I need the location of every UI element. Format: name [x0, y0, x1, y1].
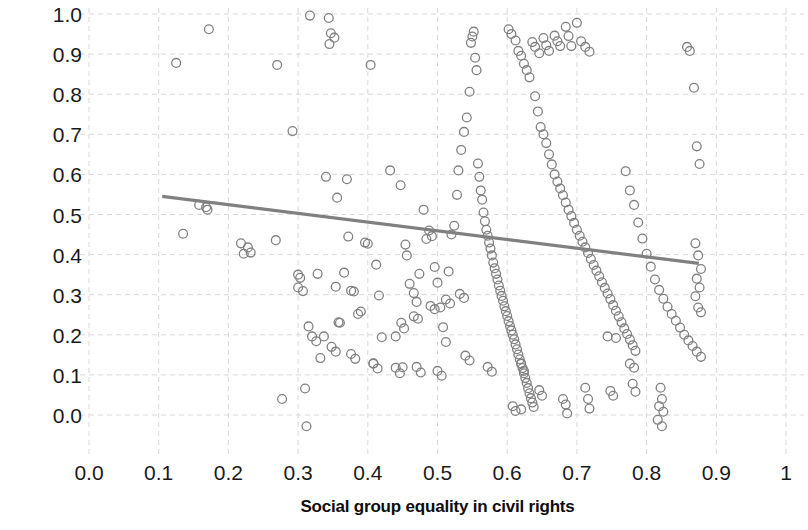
data-point	[658, 422, 667, 431]
y-axis-title: Female/male ratio	[6, 0, 32, 40]
data-point	[467, 38, 476, 47]
data-point	[692, 142, 701, 151]
x-tick-label: 0.5	[423, 462, 452, 483]
data-point	[651, 275, 660, 284]
data-point	[450, 221, 459, 230]
data-point	[304, 322, 313, 331]
data-point	[372, 260, 381, 269]
y-tick-label: 0.6	[36, 164, 82, 185]
y-tick-label: 0.0	[36, 405, 82, 426]
y-axis-tick-labels: 0.00.10.20.30.40.50.60.70.80.91.0	[30, 0, 82, 530]
data-point	[204, 25, 213, 34]
data-point	[402, 251, 411, 260]
data-point	[659, 294, 668, 303]
data-point	[344, 232, 353, 241]
data-point	[585, 404, 594, 413]
data-point	[691, 292, 700, 301]
data-point	[490, 264, 499, 273]
data-point	[302, 422, 311, 431]
trendline	[162, 196, 699, 263]
data-point	[278, 395, 287, 404]
data-point	[621, 167, 630, 176]
x-axis-tick-labels: 0.00.10.20.30.40.50.60.70.80.91	[0, 462, 808, 490]
data-point	[333, 193, 342, 202]
data-point	[603, 332, 612, 341]
data-point	[172, 59, 181, 68]
data-point	[444, 267, 453, 276]
data-point	[476, 186, 485, 195]
data-point	[454, 166, 463, 175]
data-point	[631, 387, 640, 396]
data-point	[493, 275, 502, 284]
data-point	[694, 251, 703, 260]
data-point	[342, 175, 351, 184]
scatter-points-group	[172, 11, 706, 430]
y-tick-label: 0.3	[36, 284, 82, 305]
x-tick-label: 0.4	[353, 462, 382, 483]
data-point	[386, 166, 395, 175]
data-point	[690, 83, 699, 92]
data-point	[271, 236, 280, 245]
data-point	[653, 415, 662, 424]
data-point	[482, 225, 491, 234]
y-tick-label: 0.4	[36, 244, 82, 265]
data-point	[412, 298, 421, 307]
data-point	[316, 354, 325, 363]
x-tick-label: 0.8	[632, 462, 661, 483]
data-point	[564, 32, 573, 41]
y-tick-label: 0.5	[36, 204, 82, 225]
data-point	[567, 42, 576, 51]
data-point	[453, 190, 462, 199]
data-point	[288, 127, 297, 136]
data-point	[457, 146, 466, 155]
data-point	[481, 217, 490, 226]
data-point	[203, 205, 212, 214]
data-point	[474, 159, 483, 168]
y-tick-label: 0.7	[36, 124, 82, 145]
y-tick-label: 1.0	[36, 4, 82, 25]
data-point	[581, 383, 590, 392]
data-point	[415, 269, 424, 278]
data-point	[179, 229, 188, 238]
data-point	[465, 87, 474, 96]
x-tick-label: 0.7	[562, 462, 591, 483]
y-axis-title-wrapper: Female/male ratio	[6, 40, 32, 441]
x-tick-label: 0.2	[214, 462, 243, 483]
data-point	[655, 285, 664, 294]
data-point	[638, 234, 647, 243]
data-point	[563, 409, 572, 418]
data-point	[656, 383, 665, 392]
data-point	[535, 49, 544, 58]
data-point	[542, 139, 551, 148]
data-point	[462, 113, 471, 122]
scatter-plot-figure: 0.00.10.20.30.40.50.60.70.80.91.0 0.00.1…	[0, 0, 808, 530]
data-point	[409, 289, 418, 298]
data-point	[630, 200, 639, 209]
x-tick-label: 0.9	[702, 462, 731, 483]
data-point	[695, 283, 704, 292]
x-tick-label: 0.6	[493, 462, 522, 483]
data-point	[517, 405, 526, 414]
data-point	[492, 269, 501, 278]
data-point	[331, 282, 340, 291]
y-tick-label: 0.1	[36, 364, 82, 385]
data-point	[244, 243, 253, 252]
data-point	[375, 291, 384, 300]
x-tick-label: 0.3	[283, 462, 312, 483]
data-point	[354, 310, 363, 319]
data-point	[545, 150, 554, 159]
y-tick-label: 0.9	[36, 44, 82, 65]
data-point	[691, 239, 700, 248]
data-point	[695, 160, 704, 169]
data-point	[391, 332, 400, 341]
data-point	[511, 36, 520, 45]
data-point	[324, 14, 333, 23]
data-point	[634, 218, 643, 227]
x-tick-label: 1	[780, 462, 792, 483]
x-axis-title: Social group equality in civil rights	[89, 497, 786, 517]
data-point	[584, 395, 593, 404]
x-tick-label: 0.0	[74, 462, 103, 483]
plot-area	[0, 0, 808, 530]
data-point	[478, 195, 487, 204]
data-point	[401, 240, 410, 249]
